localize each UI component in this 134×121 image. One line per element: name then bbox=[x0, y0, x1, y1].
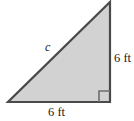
hypotenuse-label: c bbox=[45, 41, 50, 53]
bottom-leg-length-label: 6 ft bbox=[48, 106, 65, 119]
right-triangle-figure: c 6 ft 6 ft bbox=[0, 0, 134, 121]
right-leg-length-label: 6 ft bbox=[114, 52, 131, 65]
triangle-shape bbox=[8, 2, 110, 102]
